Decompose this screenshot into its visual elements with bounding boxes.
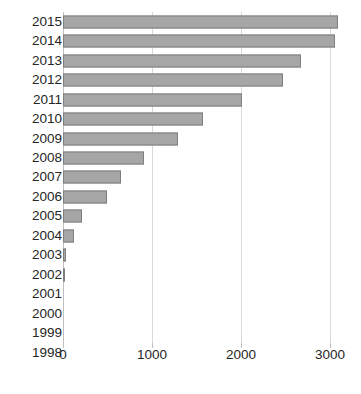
- bar-2000: [63, 307, 64, 320]
- bar-row: 2008: [0, 148, 361, 167]
- y-axis-tick-label: 2007: [32, 171, 62, 185]
- y-axis-tick-label: 2011: [33, 93, 62, 107]
- bar-2004: [63, 229, 74, 242]
- y-axis-tick-label: 2000: [32, 307, 62, 321]
- bar-row: 2007: [0, 168, 361, 187]
- x-axis-tick-label: 0: [59, 348, 67, 362]
- bar-rows: 2015 2014 2013 2012 2011 2010 2009: [0, 12, 361, 343]
- x-axis-labels: 0 1000 2000 3000: [0, 348, 361, 370]
- bar-row: 2009: [0, 129, 361, 148]
- bar-2002: [63, 268, 65, 281]
- bar-2006: [63, 190, 107, 203]
- bar-row: 2010: [0, 109, 361, 128]
- bar-row: 1999: [0, 324, 361, 343]
- bar-2015: [63, 15, 338, 28]
- y-axis-tick-label: 2004: [32, 229, 62, 243]
- y-axis-tick-label: 1999: [32, 327, 62, 341]
- bar-2007: [63, 171, 121, 184]
- bar-2014: [63, 35, 335, 48]
- bar-2003: [63, 249, 66, 262]
- bar-row: 2013: [0, 51, 361, 70]
- bar-row: 2005: [0, 207, 361, 226]
- x-axis-tick-label: 1000: [137, 348, 167, 362]
- y-axis-tick-label: 2015: [32, 15, 62, 29]
- bar-row: 2014: [0, 31, 361, 50]
- y-axis-tick-label: 2009: [32, 132, 62, 146]
- y-axis-tick-label: 2005: [32, 210, 62, 224]
- bar-row: 2004: [0, 226, 361, 245]
- y-axis-tick-label: 2010: [32, 112, 62, 126]
- bar-2008: [63, 152, 144, 165]
- bar-row: 2000: [0, 304, 361, 323]
- bar-row: 2002: [0, 265, 361, 284]
- x-axis-tick-label: 2000: [226, 348, 256, 362]
- bar-2001: [63, 288, 64, 301]
- y-axis-tick-label: 2001: [32, 288, 62, 302]
- y-axis-tick-label: 2002: [32, 268, 62, 282]
- bar-2009: [63, 132, 178, 145]
- bar-row: 2001: [0, 285, 361, 304]
- y-axis-tick-label: 2003: [32, 249, 62, 263]
- y-axis-tick-label: 2006: [32, 190, 62, 204]
- bar-2013: [63, 54, 301, 67]
- x-axis-tick-label: 3000: [315, 348, 345, 362]
- y-axis-tick-label: 2012: [32, 73, 62, 87]
- bar-2012: [63, 74, 283, 87]
- bar-2005: [63, 210, 82, 223]
- bar-row: 2015: [0, 12, 361, 31]
- y-axis-tick-label: 2008: [32, 151, 62, 165]
- bar-2010: [63, 113, 203, 126]
- bar-row: 2003: [0, 246, 361, 265]
- bar-chart: 2015 2014 2013 2012 2011 2010 2009: [0, 0, 361, 394]
- bar-row: 2006: [0, 187, 361, 206]
- bar-row: 2012: [0, 70, 361, 89]
- bar-2011: [63, 93, 242, 106]
- y-axis-tick-label: 2014: [32, 34, 62, 48]
- bar-row: 2011: [0, 90, 361, 109]
- y-axis-tick-label: 2013: [32, 54, 62, 68]
